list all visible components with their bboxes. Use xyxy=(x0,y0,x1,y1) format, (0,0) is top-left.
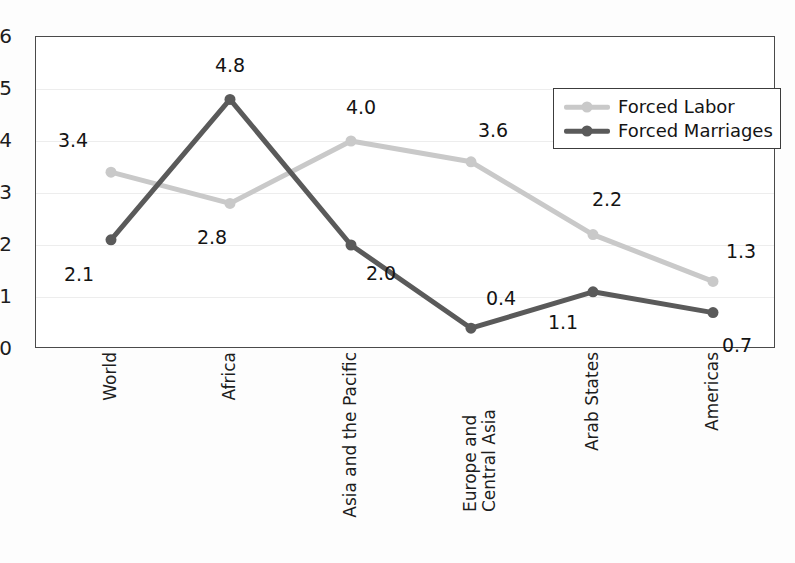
data-point[interactable] xyxy=(225,198,236,209)
data-point[interactable] xyxy=(225,94,236,105)
series-layer xyxy=(36,37,776,349)
data-label: 2.2 xyxy=(592,189,622,208)
data-label: 1.3 xyxy=(726,242,756,261)
data-label: 0.4 xyxy=(486,289,516,308)
data-point[interactable] xyxy=(346,240,357,251)
x-tick-label: World xyxy=(101,352,120,401)
data-label: 3.4 xyxy=(58,131,88,150)
y-tick-label: 4 xyxy=(0,130,12,150)
y-tick-label: 1 xyxy=(0,286,12,306)
legend-label-forced-labor: Forced Labor xyxy=(618,98,735,116)
legend-item-forced-marriages[interactable]: Forced Marriages xyxy=(564,119,780,143)
y-tick-label: 6 xyxy=(0,26,12,46)
data-label: 2.0 xyxy=(366,264,396,283)
y-tick-label: 0 xyxy=(0,338,12,358)
y-tick-label: 3 xyxy=(0,182,12,202)
x-tick-label: Americas xyxy=(703,352,722,431)
series-line-1 xyxy=(111,141,713,281)
data-point[interactable] xyxy=(588,286,599,297)
data-point[interactable] xyxy=(106,167,117,178)
data-label: 2.8 xyxy=(197,228,227,247)
data-point[interactable] xyxy=(466,156,477,167)
x-tick-label: Arab States xyxy=(583,352,602,451)
data-point[interactable] xyxy=(708,307,719,318)
data-label: 1.1 xyxy=(548,312,578,331)
x-tick-label: Asia and the Pacific xyxy=(341,352,360,518)
data-point[interactable] xyxy=(106,234,117,245)
x-tick-label: Europe and Central Asia xyxy=(461,352,499,512)
y-tick-label: 5 xyxy=(0,78,12,98)
legend-swatch-forced-labor xyxy=(564,100,610,114)
plot-area: 3.42.84.03.62.21.32.14.82.00.41.10.7 For… xyxy=(35,36,775,348)
chart-legend[interactable]: Forced Labor Forced Marriages xyxy=(553,88,781,149)
legend-marker-icon xyxy=(582,126,593,137)
legend-marker-icon xyxy=(582,102,593,113)
y-tick-label: 2 xyxy=(0,234,12,254)
data-label: 4.0 xyxy=(346,98,376,117)
data-point[interactable] xyxy=(588,229,599,240)
data-label: 2.1 xyxy=(64,264,94,283)
legend-item-forced-labor[interactable]: Forced Labor xyxy=(564,95,780,119)
data-label: 4.8 xyxy=(215,56,245,75)
data-point[interactable] xyxy=(466,323,477,334)
data-label: 0.7 xyxy=(722,335,752,354)
data-label: 3.6 xyxy=(478,120,508,139)
legend-label-forced-marriages: Forced Marriages xyxy=(618,122,773,140)
legend-swatch-forced-marriages xyxy=(564,124,610,138)
data-point[interactable] xyxy=(346,136,357,147)
x-tick-label: Africa xyxy=(220,352,239,401)
chart-canvas: 0123456 3.42.84.03.62.21.32.14.82.00.41.… xyxy=(0,0,795,563)
data-point[interactable] xyxy=(708,276,719,287)
